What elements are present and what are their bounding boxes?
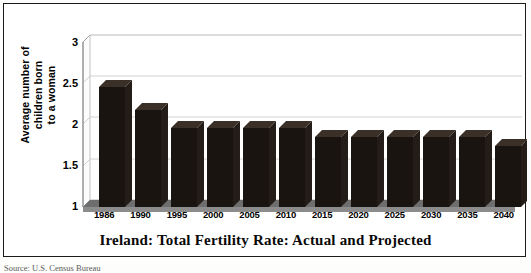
bar-2010 bbox=[279, 121, 312, 207]
bar-1986 bbox=[99, 80, 132, 207]
chart-title: Ireland: Total Fertility Rate: Actual an… bbox=[4, 232, 527, 249]
x-tick-2030: 2030 bbox=[413, 209, 449, 225]
bar-2015 bbox=[315, 130, 348, 207]
bar-2025 bbox=[387, 130, 420, 207]
plot-area: Average number of children born to a wom… bbox=[4, 4, 527, 226]
chart-frame: Average number of children born to a wom… bbox=[3, 3, 526, 257]
y-tick-1.5: 1.5 bbox=[52, 160, 78, 171]
y-axis-title-line-2: children born bbox=[32, 61, 45, 129]
bar-2035 bbox=[459, 130, 492, 207]
x-tick-1995: 1995 bbox=[159, 209, 195, 225]
x-tick-1990: 1990 bbox=[122, 209, 158, 225]
y-tick-3: 3 bbox=[52, 37, 78, 48]
bar-2000 bbox=[207, 121, 240, 207]
x-tick-2005: 2005 bbox=[231, 209, 267, 225]
bar-2030 bbox=[423, 130, 456, 207]
plot-side-wall bbox=[83, 35, 90, 207]
source-note: Source: U.S. Census Bureau bbox=[4, 263, 101, 273]
bar-1995 bbox=[171, 121, 204, 207]
scanned-page: Average number of children born to a wom… bbox=[0, 0, 531, 273]
x-tick-2000: 2000 bbox=[195, 209, 231, 225]
y-axis-title-line-1: Average number of bbox=[19, 47, 32, 144]
y-tick-1: 1 bbox=[52, 201, 78, 212]
x-tick-2020: 2020 bbox=[340, 209, 376, 225]
bar-2020 bbox=[351, 130, 384, 207]
bar-2005 bbox=[243, 121, 276, 207]
x-tick-1986: 1986 bbox=[86, 209, 122, 225]
bar-2040 bbox=[495, 139, 527, 207]
y-tick-2.5: 2.5 bbox=[52, 78, 78, 89]
y-tick-2: 2 bbox=[52, 119, 78, 130]
x-tick-2040: 2040 bbox=[486, 209, 522, 225]
x-tick-2035: 2035 bbox=[449, 209, 485, 225]
x-tick-2010: 2010 bbox=[268, 209, 304, 225]
x-axis-tick-labels: 1986 1990 1995 2000 2005 2010 2015 2020 … bbox=[86, 209, 522, 225]
bar-chart-graphic bbox=[4, 4, 527, 226]
y-axis-tick-labels: 3 2.5 2 1.5 1 bbox=[48, 4, 78, 226]
bar-1990 bbox=[135, 103, 168, 207]
x-tick-2015: 2015 bbox=[304, 209, 340, 225]
x-tick-2025: 2025 bbox=[377, 209, 413, 225]
